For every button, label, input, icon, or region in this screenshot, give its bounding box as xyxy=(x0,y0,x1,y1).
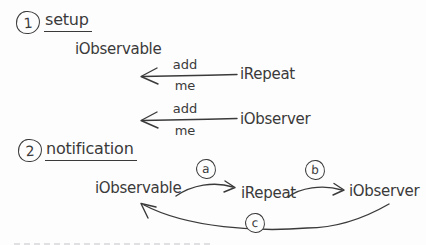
notification-section-title: notification xyxy=(45,139,137,161)
edge-c-arrowhead xyxy=(141,204,156,219)
node-iobservable-label: iObservable xyxy=(95,179,181,197)
edge-c-badge: c xyxy=(244,212,265,233)
call-2-me-label: me xyxy=(167,123,203,138)
setup-section-title: setup xyxy=(44,10,92,32)
call-1-add-label: add xyxy=(167,57,203,72)
edge-a-badge: a xyxy=(195,158,216,179)
node-iobserver-label: iObserver xyxy=(349,182,419,200)
call-2-arrow-shaft xyxy=(142,119,237,121)
edge-a-curve xyxy=(176,184,233,196)
diagram-strokes xyxy=(0,0,426,245)
call-1-me-label: me xyxy=(167,78,203,93)
call-2-add-label: add xyxy=(167,101,203,116)
node-irepeat-label: iRepeat xyxy=(241,184,296,202)
lifeline-iobservable-label: iObservable xyxy=(75,40,161,58)
hand-drawn-diagram: 1 setup iObservable add me iRepeat add m… xyxy=(0,0,426,245)
call-2-caller-label: iObserver xyxy=(240,110,310,128)
call-1-caller-label: iRepeat xyxy=(240,65,295,83)
edge-b-curve xyxy=(288,187,342,197)
call-1-arrow-shaft xyxy=(142,75,237,77)
edge-b-badge: b xyxy=(304,159,325,180)
edge-c-curve xyxy=(144,204,389,229)
